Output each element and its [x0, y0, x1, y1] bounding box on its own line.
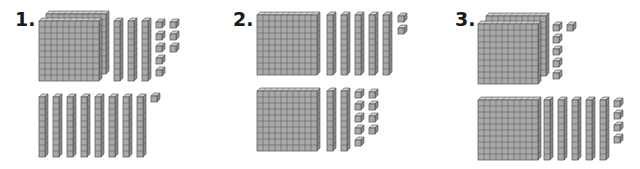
blocks-canvas [0, 0, 640, 169]
ones-cube [398, 25, 407, 34]
tens-rod [572, 97, 581, 160]
tens-rod [600, 97, 609, 160]
tens-rod [327, 12, 336, 75]
ones-cube [553, 34, 562, 43]
ones-cube [369, 89, 378, 98]
tens-rod [123, 94, 132, 157]
hundreds-flat [257, 12, 320, 75]
ones-cube [170, 43, 179, 52]
tens-rod [558, 97, 567, 160]
ones-cube [553, 22, 562, 31]
ones-cube [355, 101, 364, 110]
ones-cube [156, 19, 165, 28]
ones-cube [170, 31, 179, 40]
tens-rod [109, 94, 118, 157]
ones-cube [614, 110, 623, 119]
tens-rod [369, 12, 378, 75]
tens-rod [95, 94, 104, 157]
hundreds-flat [39, 18, 102, 81]
ones-cube [553, 46, 562, 55]
ones-cube [355, 125, 364, 134]
ones-cube [170, 19, 179, 28]
tens-rod [341, 12, 350, 75]
ones-cube [156, 67, 165, 76]
tens-rod [137, 94, 146, 157]
ones-cube [355, 137, 364, 146]
tens-rod [142, 18, 151, 81]
tens-rod [383, 12, 392, 75]
tens-rod [341, 88, 350, 151]
ones-cube [156, 43, 165, 52]
tens-rod [355, 12, 364, 75]
tens-rod [81, 94, 90, 157]
ones-cube [614, 98, 623, 107]
ones-cube [553, 58, 562, 67]
ones-cube [156, 55, 165, 64]
hundreds-flat [478, 21, 541, 84]
ones-cube [369, 101, 378, 110]
ones-cube [156, 31, 165, 40]
tens-rod [544, 97, 553, 160]
ones-cube [355, 113, 364, 122]
tens-rod [128, 18, 137, 81]
ones-cube [567, 22, 576, 31]
tens-rod [114, 18, 123, 81]
ones-cube [614, 122, 623, 131]
tens-rod [39, 94, 48, 157]
ones-cube [553, 70, 562, 79]
tens-rod [67, 94, 76, 157]
ones-cube [369, 113, 378, 122]
tens-rod [53, 94, 62, 157]
tens-rod [586, 97, 595, 160]
hundreds-flat [478, 97, 541, 160]
tens-rod [327, 88, 336, 151]
ones-cube [355, 89, 364, 98]
ones-cube [151, 93, 160, 102]
ones-cube [369, 125, 378, 134]
hundreds-flat [257, 88, 320, 151]
ones-cube [614, 134, 623, 143]
ones-cube [398, 13, 407, 22]
